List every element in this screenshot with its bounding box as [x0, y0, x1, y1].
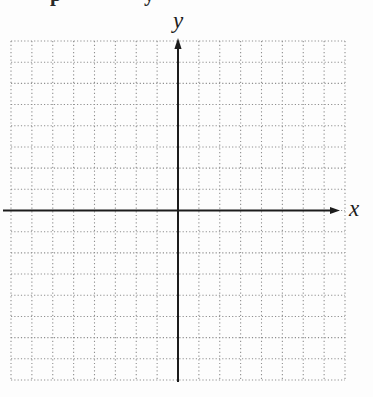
- x-axis-arrowhead: [330, 207, 340, 214]
- y-axis-label: y: [173, 9, 183, 32]
- y-axis-arrowhead: [174, 38, 181, 49]
- x-axis-label: x: [349, 197, 359, 220]
- coordinate-grid: [0, 0, 373, 397]
- figure-canvas: p y y x: [0, 0, 373, 397]
